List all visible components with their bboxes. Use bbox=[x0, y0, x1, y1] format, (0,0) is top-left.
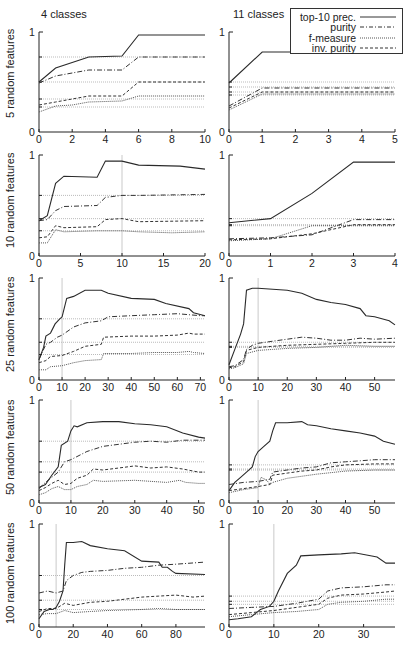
y-tick-label: 0 bbox=[219, 250, 225, 262]
x-tick-label: 40 bbox=[125, 381, 137, 393]
y-tick-label: 1 bbox=[219, 518, 225, 530]
x-tick-label: 4 bbox=[392, 257, 398, 269]
series-f-measure bbox=[229, 470, 395, 493]
x-tick-label: 40 bbox=[161, 504, 173, 516]
y-tick-label: 0 bbox=[219, 621, 225, 633]
legend-item-inv-purity: inv. purity bbox=[312, 43, 396, 54]
x-tick-label: 0 bbox=[226, 381, 232, 393]
series-inv-purity bbox=[229, 225, 395, 240]
x-tick-label: 1 bbox=[259, 133, 265, 145]
x-tick-label: 20 bbox=[313, 628, 325, 640]
subplot-r2-c1: 1001020304050 bbox=[219, 272, 395, 393]
x-tick-label: 30 bbox=[311, 504, 323, 516]
x-tick-label: 10 bbox=[199, 133, 211, 145]
dashdot-line-swatch-icon bbox=[360, 24, 396, 30]
subplot-r2-c0: 10010203040506070 bbox=[29, 272, 206, 393]
x-tick-label: 40 bbox=[340, 504, 352, 516]
y-tick-label: 1 bbox=[29, 149, 35, 161]
x-tick-label: 0 bbox=[36, 381, 42, 393]
dotted-line-swatch-icon bbox=[360, 35, 396, 41]
x-tick-label: 5 bbox=[78, 257, 84, 269]
x-tick-label: 2 bbox=[309, 257, 315, 269]
x-tick-label: 0 bbox=[226, 257, 232, 269]
x-tick-label: 50 bbox=[369, 504, 381, 516]
series-purity bbox=[229, 460, 395, 485]
subplot-r0-c0: 100246810 bbox=[29, 26, 211, 145]
x-tick-label: 60 bbox=[171, 381, 183, 393]
series-purity bbox=[39, 57, 205, 83]
y-tick-label: 1 bbox=[219, 149, 225, 161]
x-tick-label: 8 bbox=[169, 133, 175, 145]
x-tick-label: 50 bbox=[148, 381, 160, 393]
series-top-10-prec- bbox=[229, 553, 395, 620]
series-inv-purity bbox=[39, 82, 205, 105]
legend: top-10 prec. purity f-measure inv. purit… bbox=[290, 8, 403, 54]
x-tick-label: 10 bbox=[56, 381, 68, 393]
solid-line-swatch-icon bbox=[360, 14, 396, 20]
x-tick-label: 1 bbox=[268, 257, 274, 269]
y-tick-label: 1 bbox=[219, 394, 225, 406]
x-tick-label: 15 bbox=[158, 257, 170, 269]
y-tick-label: 1 bbox=[29, 272, 35, 284]
series-f-measure bbox=[39, 480, 205, 495]
y-tick-label: 0 bbox=[219, 126, 225, 138]
x-tick-label: 3 bbox=[326, 133, 332, 145]
series-purity bbox=[229, 220, 395, 239]
x-tick-label: 10 bbox=[116, 257, 128, 269]
y-tick-label: 1 bbox=[29, 394, 35, 406]
x-tick-label: 6 bbox=[136, 133, 142, 145]
y-tick-label: 1 bbox=[219, 272, 225, 284]
legend-label: inv. purity bbox=[312, 42, 356, 54]
y-tick-label: 0 bbox=[219, 497, 225, 509]
x-tick-label: 40 bbox=[102, 628, 114, 640]
subplot-r3-c0: 1001020304050 bbox=[29, 394, 205, 516]
y-tick-label: 0 bbox=[29, 374, 35, 386]
y-tick-label: 1 bbox=[29, 26, 35, 38]
x-tick-label: 0 bbox=[36, 257, 42, 269]
series-inv-purity bbox=[39, 333, 205, 363]
y-tick-label: 1 bbox=[219, 26, 225, 38]
x-tick-label: 3 bbox=[351, 257, 357, 269]
y-tick-label: 0 bbox=[219, 374, 225, 386]
series-top-10-prec- bbox=[229, 50, 395, 83]
subplot-r3-c1: 1001020304050 bbox=[219, 394, 395, 516]
x-tick-label: 70 bbox=[195, 381, 207, 393]
plot-grid: 1002468101001234510051015201001234100102… bbox=[0, 0, 407, 647]
series-top-10-prec- bbox=[39, 422, 205, 488]
x-tick-label: 30 bbox=[358, 628, 370, 640]
x-tick-label: 0 bbox=[36, 628, 42, 640]
series-top-10-prec- bbox=[39, 35, 205, 82]
subplot-r1-c1: 1001234 bbox=[219, 149, 398, 269]
x-tick-label: 50 bbox=[193, 504, 205, 516]
x-tick-label: 60 bbox=[136, 628, 148, 640]
x-tick-label: 30 bbox=[129, 504, 141, 516]
x-tick-label: 5 bbox=[392, 133, 398, 145]
y-tick-label: 0 bbox=[29, 621, 35, 633]
x-tick-label: 30 bbox=[311, 381, 323, 393]
x-tick-label: 40 bbox=[340, 381, 352, 393]
series-top-10-prec- bbox=[229, 422, 395, 491]
y-tick-label: 0 bbox=[29, 497, 35, 509]
series-top-10-prec- bbox=[39, 290, 205, 359]
series-top-10-prec- bbox=[39, 542, 205, 619]
x-tick-label: 20 bbox=[67, 628, 79, 640]
x-tick-label: 4 bbox=[102, 133, 108, 145]
y-tick-label: 0 bbox=[29, 126, 35, 138]
figure: 4 classes 11 classes 5 random features 1… bbox=[0, 0, 407, 647]
series-purity bbox=[229, 88, 395, 106]
x-tick-label: 10 bbox=[65, 504, 77, 516]
x-tick-label: 0 bbox=[226, 133, 232, 145]
x-tick-label: 20 bbox=[97, 504, 109, 516]
x-tick-label: 2 bbox=[69, 133, 75, 145]
series-top-10-prec- bbox=[229, 288, 395, 365]
x-tick-label: 20 bbox=[79, 381, 91, 393]
x-tick-label: 0 bbox=[36, 504, 42, 516]
subplot-r1-c0: 1005101520 bbox=[29, 149, 211, 269]
series-inv-purity bbox=[229, 464, 395, 491]
x-tick-label: 50 bbox=[369, 381, 381, 393]
series-purity bbox=[229, 337, 395, 367]
series-inv-purity bbox=[229, 591, 395, 615]
y-tick-label: 0 bbox=[29, 250, 35, 262]
x-tick-label: 30 bbox=[102, 381, 114, 393]
series-f-measure bbox=[39, 96, 205, 112]
